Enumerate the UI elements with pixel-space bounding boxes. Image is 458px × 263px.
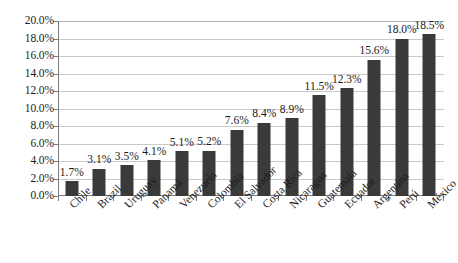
y-axis-tick-label: 10.0%	[0, 103, 54, 115]
bars-layer: 1.7%3.1%3.5%4.1%5.1%5.2%7.6%8.4%8.9%11.5…	[58, 21, 443, 196]
y-axis-tick-mark	[54, 196, 58, 197]
y-axis-tick-label: 0.0%	[0, 190, 54, 202]
bar-chart: 0.0%2.0%4.0%6.0%8.0%10.0%12.0%14.0%16.0%…	[0, 0, 458, 263]
bar-value-label: 3.5%	[115, 151, 139, 163]
y-axis-tick-mark	[54, 21, 58, 22]
bar-value-label: 7.6%	[225, 115, 249, 127]
y-axis-tick-label: 16.0%	[0, 50, 54, 62]
bar-slot: 15.6%	[361, 21, 389, 196]
bar-slot: 3.5%	[113, 21, 141, 196]
y-axis-tick-mark	[54, 91, 58, 92]
y-axis-tick-label: 4.0%	[0, 155, 54, 167]
y-axis-tick-label: 20.0%	[0, 15, 54, 27]
bar-slot: 1.7%	[58, 21, 86, 196]
y-axis-tick-label: 12.0%	[0, 85, 54, 97]
y-axis-labels: 0.0%2.0%4.0%6.0%8.0%10.0%12.0%14.0%16.0%…	[0, 0, 54, 263]
y-axis-tick-mark	[54, 179, 58, 180]
x-axis-tick-mark	[58, 196, 59, 201]
y-axis-tick-mark	[54, 39, 58, 40]
bar-value-label: 4.1%	[142, 146, 166, 158]
bar-slot: 4.1%	[141, 21, 169, 196]
bar-value-label: 5.2%	[197, 136, 221, 148]
y-axis-tick-mark	[54, 109, 58, 110]
y-axis-tick-label: 18.0%	[0, 33, 54, 45]
bar-value-label: 12.3%	[332, 74, 362, 86]
bar-value-label: 18.5%	[414, 20, 444, 32]
y-axis-tick-mark	[54, 56, 58, 57]
bar-value-label: 8.9%	[280, 104, 304, 116]
bar-value-label: 11.5%	[305, 81, 334, 93]
y-axis-tick-mark	[54, 126, 58, 127]
bar-value-label: 15.6%	[359, 45, 389, 57]
bar-value-label: 8.4%	[252, 108, 276, 120]
y-axis-tick-label: 14.0%	[0, 68, 54, 80]
bar-value-label: 18.0%	[387, 24, 417, 36]
x-axis-labels: ChileBrazilUruguayPanamáVenezuelaColombi…	[58, 202, 458, 263]
bar-slot: 5.1%	[168, 21, 196, 196]
y-axis-tick-label: 6.0%	[0, 138, 54, 150]
bar-slot: 18.5%	[416, 21, 444, 196]
bar-value-label: 1.7%	[60, 167, 84, 179]
y-axis-tick-mark	[54, 74, 58, 75]
bar-value-label: 3.1%	[87, 154, 111, 166]
y-axis-tick-mark	[54, 144, 58, 145]
y-axis-tick-label: 8.0%	[0, 120, 54, 132]
bar[interactable]	[423, 34, 436, 196]
y-axis-tick-label: 2.0%	[0, 173, 54, 185]
bar-slot: 3.1%	[86, 21, 114, 196]
y-axis-tick-mark	[54, 161, 58, 162]
bar-value-label: 5.1%	[170, 137, 194, 149]
